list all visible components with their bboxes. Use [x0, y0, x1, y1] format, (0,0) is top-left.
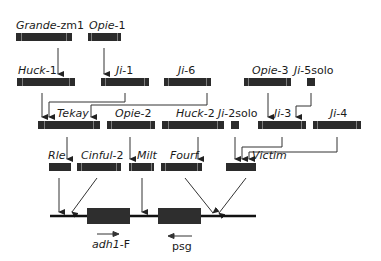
- element-box-ji3: [258, 121, 306, 129]
- label-opie1: Opie-1: [89, 20, 125, 32]
- label-ji2solo: Ji-2solo: [218, 108, 258, 120]
- label-psg: psg: [172, 240, 192, 253]
- element-box-rle: [49, 163, 71, 171]
- label-opie3: Opie-3: [252, 65, 288, 77]
- element-box-tekay: [38, 121, 100, 129]
- label-grande-zm1: Grande-zm1: [16, 20, 84, 32]
- element-box-huck2: [162, 121, 224, 129]
- element-box-ji6: [164, 78, 211, 86]
- element-box-ji5solo: [307, 78, 315, 86]
- element-box-ji4: [313, 121, 361, 129]
- element-box-cinful2: [77, 163, 121, 171]
- label-rle: Rle: [48, 150, 65, 162]
- gene-box-adh1f: [87, 208, 130, 224]
- label-ji6: Ji-6: [178, 65, 195, 77]
- element-box-opie1: [88, 33, 121, 41]
- label-adh1f: adh1-F: [92, 238, 130, 251]
- label-huck1: Huck-1: [18, 65, 57, 77]
- arrow-ji5solo-to-ji3: [296, 93, 311, 117]
- element-box-grande-zm1: [16, 33, 72, 41]
- element-box-ji2solo: [231, 121, 239, 129]
- label-ji4: Ji-4: [330, 108, 347, 120]
- arrow-cinful2-to-locus: [72, 178, 97, 212]
- element-box-ji1: [101, 78, 149, 86]
- element-box-huck1: [17, 78, 75, 86]
- label-fourf: Fourf: [170, 150, 198, 162]
- gene-box-psg: [158, 208, 201, 224]
- label-cinful2: Cinful-2: [81, 150, 124, 162]
- label-tekay: Tekay: [57, 108, 89, 120]
- label-ji1: Ji-1: [116, 65, 133, 77]
- label-milt: Milt: [137, 150, 157, 162]
- arrow-victim-to-locus: [219, 178, 246, 213]
- element-box-opie3: [244, 78, 291, 86]
- transposon-nesting-diagram: Grande-zm1 Opie-1 Huck-1 Ji-1 Ji-6 Opie-…: [0, 0, 381, 261]
- label-opie2: Opie-2: [115, 108, 151, 120]
- element-box-fourf: [161, 163, 202, 171]
- label-ji3: Ji-3: [274, 108, 291, 120]
- element-box-victim: [226, 163, 256, 171]
- label-ji5solo: Ji-5solo: [294, 65, 334, 77]
- element-box-opie2: [107, 121, 155, 129]
- label-victim: Victim: [252, 150, 287, 162]
- label-huck2: Huck-2: [176, 108, 215, 120]
- element-box-milt: [129, 163, 154, 171]
